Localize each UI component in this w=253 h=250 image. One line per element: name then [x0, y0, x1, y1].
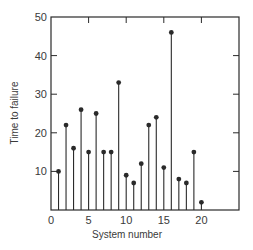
x-axis-label: System number — [92, 229, 163, 240]
y-axis-label: Time to failure — [9, 81, 20, 144]
plot-frame — [51, 17, 239, 210]
stem-point — [146, 123, 151, 210]
x-axis-ticks: 05101520 — [48, 17, 208, 226]
stem-point — [169, 30, 174, 210]
stem-point — [191, 150, 196, 210]
stem-point — [176, 177, 181, 210]
stem-point — [184, 181, 189, 210]
x-tick-label: 20 — [195, 214, 207, 226]
x-tick-label: 5 — [86, 214, 92, 226]
stem-point — [109, 150, 114, 210]
x-tick-label: 15 — [158, 214, 170, 226]
stem-series — [56, 30, 204, 210]
stem-point — [199, 200, 204, 210]
y-tick-label: 30 — [35, 88, 47, 100]
stem-point — [154, 115, 159, 210]
stem-point — [139, 161, 144, 210]
stem-point — [124, 173, 129, 210]
stem-point — [101, 150, 106, 210]
stem-point — [116, 80, 121, 210]
stem-point — [56, 169, 61, 210]
y-tick-label: 40 — [35, 50, 47, 62]
stem-point — [71, 146, 76, 210]
stem-point — [161, 165, 166, 210]
stem-point — [86, 150, 91, 210]
stem-point — [79, 107, 84, 210]
stem-chart: 1020304050 05101520 Time to failure Syst… — [0, 0, 253, 250]
y-tick-label: 50 — [35, 11, 47, 23]
x-tick-label: 10 — [120, 214, 132, 226]
stem-point — [94, 111, 99, 210]
y-tick-label: 20 — [35, 127, 47, 139]
y-axis-ticks: 1020304050 — [35, 11, 239, 177]
y-tick-label: 10 — [35, 165, 47, 177]
x-tick-label: 0 — [48, 214, 54, 226]
stem-point — [64, 123, 69, 210]
stem-point — [131, 181, 136, 210]
